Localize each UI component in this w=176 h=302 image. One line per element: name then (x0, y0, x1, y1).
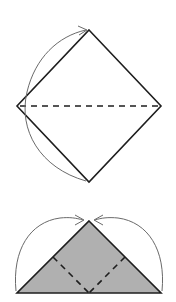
step-2-triangle-fold (15, 215, 162, 293)
diagram-canvas (0, 0, 176, 302)
origami-diagram: Origami folding steps: a square diamond … (0, 0, 176, 302)
folded-triangle (17, 221, 161, 293)
step-1-diamond-fold (17, 26, 161, 182)
